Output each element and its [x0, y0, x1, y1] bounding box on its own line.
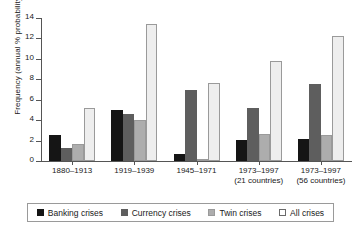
x-tick-label-primary: 1919–1939 — [114, 166, 154, 175]
bar-chart: Frequency (annual % probability) 0246810… — [0, 0, 361, 232]
x-tick-label-primary: 1973–1997 — [239, 166, 279, 175]
bar — [134, 120, 146, 161]
bar — [174, 154, 186, 161]
x-tick-label: 1973–1997(21 countries) — [228, 166, 290, 186]
x-axis-tick-labels: 1880–19131919–19391945–19711973–1997(21 … — [41, 166, 352, 194]
legend-label: Twin crises — [219, 208, 261, 218]
y-tick-label: 4 — [30, 114, 34, 123]
bar — [146, 24, 158, 161]
bar — [236, 140, 248, 161]
bar — [185, 90, 197, 162]
x-tick-label: 1880–1913 — [41, 166, 103, 176]
bar — [309, 84, 321, 161]
x-tick-label: 1945–1971 — [165, 166, 227, 176]
bar — [298, 139, 310, 161]
bar — [197, 159, 209, 161]
bar — [332, 36, 344, 161]
bar — [270, 61, 282, 161]
y-tick-label: 0 — [30, 155, 34, 164]
legend-swatch — [37, 209, 44, 216]
y-tick-label: 8 — [30, 73, 34, 82]
bar — [72, 144, 84, 161]
bar-series-container — [41, 18, 352, 161]
y-axis-label: Frequency (annual % probability) — [13, 0, 22, 130]
x-tick-label-primary: 1880–1913 — [52, 166, 92, 175]
y-tick-label: 14 — [25, 12, 34, 21]
legend-swatch — [121, 209, 128, 216]
y-tick-label: 2 — [30, 135, 34, 144]
x-tick-label: 1919–1939 — [103, 166, 165, 176]
x-tick-mark — [197, 161, 198, 165]
legend-item: All crises — [279, 208, 324, 218]
legend-item: Banking crises — [37, 208, 103, 218]
x-tick-mark — [72, 161, 73, 165]
x-tick-label: 1973–1997(56 countries) — [290, 166, 352, 186]
x-tick-label-primary: 1973–1997 — [301, 166, 341, 175]
bar — [49, 135, 61, 161]
x-tick-label-primary: 1945–1971 — [176, 166, 216, 175]
bar — [321, 135, 333, 161]
bar — [247, 108, 259, 161]
legend-item: Twin crises — [208, 208, 261, 218]
bar — [208, 83, 220, 161]
x-tick-mark — [321, 161, 322, 165]
x-tick-label-secondary: (21 countries) — [228, 176, 290, 186]
x-tick-mark — [259, 161, 260, 165]
x-tick-mark — [134, 161, 135, 165]
legend-label: Banking crises — [48, 208, 103, 218]
bar — [259, 134, 271, 161]
bar — [123, 114, 135, 161]
legend-item: Currency crises — [121, 208, 191, 218]
legend-swatch — [208, 209, 215, 216]
bar — [61, 148, 73, 161]
x-tick-label-secondary: (56 countries) — [290, 176, 352, 186]
y-tick-label: 10 — [25, 53, 34, 62]
legend-label: All crises — [290, 208, 324, 218]
legend-swatch — [279, 209, 286, 216]
plot-area: 02468101214 — [41, 18, 352, 161]
legend-label: Currency crises — [132, 208, 191, 218]
y-tick-label: 12 — [25, 32, 34, 41]
bar — [111, 110, 123, 161]
y-tick-mark — [36, 161, 41, 162]
bar — [84, 108, 96, 161]
chart-legend: Banking crisesCurrency crisesTwin crises… — [27, 203, 334, 222]
y-tick-label: 6 — [30, 94, 34, 103]
